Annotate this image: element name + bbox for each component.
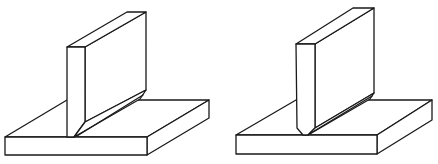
left-t-joint-figure	[5, 12, 209, 155]
right-t-joint-figure	[236, 8, 432, 154]
weld-joint-diagram	[0, 0, 438, 164]
right-base-front-face	[236, 135, 377, 154]
diagram-canvas	[0, 0, 438, 164]
left-vertical-plate-edge	[67, 47, 85, 137]
left-base-front-face	[5, 137, 147, 155]
right-vertical-plate-chamfered-edge	[296, 44, 315, 135]
